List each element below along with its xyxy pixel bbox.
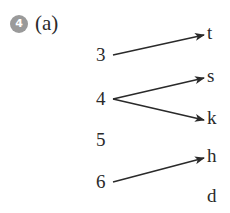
codomain-element-h: h — [207, 146, 217, 166]
codomain-element-d: d — [207, 186, 217, 206]
arrow-4-to-k — [113, 99, 204, 120]
arrow-3-to-t — [113, 35, 204, 55]
domain-element-4: 4 — [96, 89, 106, 109]
codomain-element-s: s — [207, 66, 214, 86]
arrow-6-to-h — [113, 158, 204, 182]
domain-element-5: 5 — [96, 130, 106, 150]
domain-element-6: 6 — [96, 172, 106, 192]
codomain-element-k: k — [207, 108, 217, 128]
codomain-element-t: t — [207, 23, 212, 43]
mapping-arrows — [0, 0, 230, 213]
domain-element-3: 3 — [96, 45, 106, 65]
arrow-4-to-s — [113, 78, 204, 99]
